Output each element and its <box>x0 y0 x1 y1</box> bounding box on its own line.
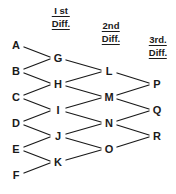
node-c: C <box>9 92 23 103</box>
edge-l-p <box>117 73 149 83</box>
node-i: I <box>51 105 65 116</box>
node-p: P <box>150 79 164 90</box>
node-m: M <box>102 92 116 103</box>
node-k: K <box>51 157 65 168</box>
col-header-1st: I stDiff. <box>52 5 70 30</box>
edge-i-n <box>66 112 101 122</box>
node-q: Q <box>150 105 164 116</box>
edge-o-r <box>117 137 149 147</box>
edge-h-l <box>66 72 101 82</box>
col-header-3rd-line1: 3rd. <box>149 34 167 46</box>
edge-n-q <box>117 111 149 121</box>
col-header-2nd-line1: 2nd <box>102 20 120 32</box>
node-f: F <box>9 170 23 181</box>
edge-k-o <box>66 150 101 160</box>
edge-i-m <box>66 98 101 108</box>
col-header-2nd: 2ndDiff. <box>102 20 120 45</box>
edge-d-i <box>24 111 50 121</box>
edge-j-n <box>66 124 101 134</box>
edge-b-g <box>24 59 50 69</box>
node-r: R <box>150 131 164 142</box>
difference-table-diagram: I stDiff.2ndDiff.3rd.Diff. ABCDEFGHIJKLM… <box>0 0 176 194</box>
edge-n-r <box>117 125 149 135</box>
col-header-1st-line1: I st <box>52 5 70 17</box>
col-header-2nd-line2: Diff. <box>102 33 120 45</box>
col-header-3rd: 3rd.Diff. <box>149 34 167 59</box>
edge-layer <box>0 0 176 194</box>
node-l: L <box>102 66 116 77</box>
node-d: D <box>9 118 23 129</box>
node-j: J <box>51 131 65 142</box>
edge-g-l <box>66 60 101 70</box>
edge-f-k <box>24 163 50 173</box>
col-header-3rd-line2: Diff. <box>149 47 167 59</box>
edge-e-k <box>24 151 50 161</box>
col-header-1st-line2: Diff. <box>52 18 70 30</box>
node-n: N <box>102 118 116 129</box>
edge-m-q <box>117 99 149 109</box>
edge-d-j <box>24 125 50 135</box>
edge-b-h <box>24 73 50 83</box>
edge-a-g <box>24 47 50 57</box>
node-h: H <box>51 79 65 90</box>
edge-m-p <box>117 85 149 95</box>
edge-c-h <box>24 85 50 95</box>
edge-c-i <box>24 99 50 109</box>
node-b: B <box>9 66 23 77</box>
edge-h-m <box>66 86 101 96</box>
node-o: O <box>102 144 116 155</box>
node-e: E <box>9 144 23 155</box>
node-g: G <box>51 53 65 64</box>
edge-j-o <box>66 138 101 148</box>
node-a: A <box>9 40 23 51</box>
edge-e-j <box>24 137 50 147</box>
